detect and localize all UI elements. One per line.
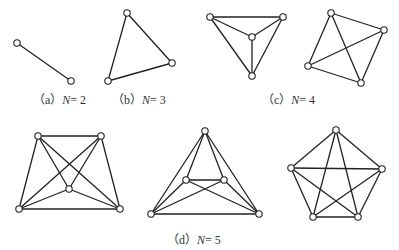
caption-b: （b）N= 3 (112, 93, 166, 107)
graph-edge (252, 17, 283, 76)
graph-n4-square (305, 10, 387, 86)
graph-node (305, 63, 311, 69)
graph-node (221, 177, 227, 183)
graph-edge (17, 43, 71, 81)
graph-edge (331, 13, 384, 30)
complete-graphs-diagram: （a）N= 2 （b）N= 3 （c）N= 4 （d）N= 5 (0, 0, 399, 250)
graph-node (202, 128, 208, 134)
graph-node (207, 14, 213, 20)
graph-node (124, 10, 130, 16)
graph-node (288, 165, 294, 171)
graph-node (355, 214, 361, 220)
graph-node (68, 78, 74, 84)
graph-node (98, 133, 104, 139)
graph-edge (19, 136, 101, 209)
graph-n5-pentagon (288, 127, 385, 220)
caption-c-suffix: = 4 (299, 93, 315, 107)
caption-b-prefix: （b） (112, 93, 142, 107)
graph-edge (108, 13, 127, 81)
graph-node (310, 214, 316, 220)
graph-node (16, 206, 22, 212)
graph-node (169, 60, 175, 66)
graph-n5-trapezoid (16, 133, 123, 212)
caption-a: （a）N= 2 (33, 93, 86, 107)
caption-a-prefix: （a） (33, 93, 62, 107)
caption-c-prefix: （c） (262, 93, 291, 107)
graph-n4-planar (207, 14, 286, 79)
graph-edge (151, 180, 186, 214)
caption-c: （c）N= 4 (262, 93, 315, 107)
graph-node (117, 206, 123, 212)
graph-node (105, 78, 111, 84)
graph-edge (308, 30, 384, 66)
graph-node (256, 211, 262, 217)
graph-n3 (105, 10, 175, 84)
caption-b-suffix: = 3 (150, 93, 166, 107)
graphs-layer (14, 10, 387, 220)
caption-d-suffix: = 5 (205, 233, 221, 247)
graph-edge (69, 136, 101, 189)
graph-edge (308, 66, 361, 83)
graph-edge (224, 180, 259, 214)
graph-node (148, 211, 154, 217)
graph-node (66, 186, 72, 192)
graph-node (249, 34, 255, 40)
graph-node (35, 133, 41, 139)
graph-edge (127, 13, 172, 63)
graph-node (14, 40, 20, 46)
caption-d-prefix: （d） (167, 233, 197, 247)
graph-edge (336, 130, 382, 169)
graph-edge (101, 136, 120, 209)
graph-node (328, 10, 334, 16)
graph-edge (308, 13, 331, 66)
graph-node (249, 73, 255, 79)
graph-edge (69, 189, 120, 209)
graph-edge (358, 169, 382, 217)
graph-edge (291, 130, 336, 168)
graph-edge (361, 30, 384, 83)
graph-n2 (14, 40, 74, 84)
graph-node (183, 177, 189, 183)
graph-node (379, 166, 385, 172)
graph-edge (19, 136, 38, 209)
graph-edge (210, 17, 252, 76)
graph-node (333, 127, 339, 133)
graph-node (381, 27, 387, 33)
graph-node (358, 80, 364, 86)
graph-n5-triangle (148, 128, 262, 217)
graph-edge (38, 136, 69, 189)
graph-edge (291, 168, 382, 169)
caption-d: （d）N= 5 (167, 233, 221, 247)
caption-a-suffix: = 2 (70, 93, 86, 107)
graph-node (280, 14, 286, 20)
graph-edge (108, 63, 172, 81)
graph-edge (210, 17, 252, 37)
graph-edge (19, 189, 69, 209)
